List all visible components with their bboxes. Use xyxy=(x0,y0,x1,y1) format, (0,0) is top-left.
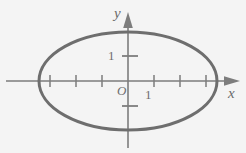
y-axis-label: y xyxy=(114,6,121,21)
origin-label: O xyxy=(117,84,126,97)
x-tick-label-1: 1 xyxy=(145,88,152,101)
ellipse-graph-figure: y x O 1 1 xyxy=(0,0,246,153)
y-axis-arrow-icon xyxy=(123,12,133,28)
x-axis-label: x xyxy=(228,86,235,101)
y-tick-label-1: 1 xyxy=(108,49,115,62)
coordinate-plane-svg xyxy=(0,0,246,153)
